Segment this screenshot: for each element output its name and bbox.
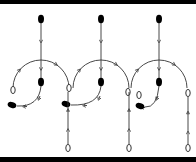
panel-3-left-open-node <box>137 91 141 98</box>
panel-3-lower-left-filled-node <box>135 102 146 111</box>
panel-1-lower-curve <box>17 86 41 106</box>
panel-1-lower-arrow-1 <box>39 96 40 99</box>
panel-2-lower-curve <box>71 86 101 105</box>
panel-1-lower-left-filled-node <box>7 101 18 110</box>
bottom-open-node-3 <box>186 144 190 151</box>
panel-2-top-filled-node <box>98 15 104 23</box>
panel-2-left-open-node <box>67 84 71 91</box>
bottom-open-node-1 <box>66 144 70 151</box>
panel-3-top-filled-node <box>156 15 162 23</box>
panel-2-center-filled-node <box>98 78 104 86</box>
panel-1-arc-left <box>13 60 41 88</box>
phase-portrait-diagram <box>0 0 196 162</box>
panel-3-right-open-node <box>186 89 190 96</box>
panel-2-right-open-node <box>126 88 130 95</box>
panel-1-arc-right <box>41 60 69 88</box>
panel-2-arc-left <box>73 60 101 88</box>
panel-2-arc-right <box>101 60 129 88</box>
panel-1-center-filled-node <box>38 78 44 86</box>
panel-3-arc-right <box>159 60 187 88</box>
panel-3-lower-curve <box>145 86 159 107</box>
panel-1-top-filled-node <box>38 15 44 23</box>
panel-2-lower-arrow-1 <box>99 96 100 99</box>
bottom-open-node-2 <box>127 144 131 151</box>
panel-3-center-filled-node <box>156 78 162 86</box>
panel-1-left-open-node <box>11 86 15 93</box>
panel-3-arc-left <box>131 60 159 88</box>
panel-2-lower-left-filled-node <box>61 100 72 109</box>
